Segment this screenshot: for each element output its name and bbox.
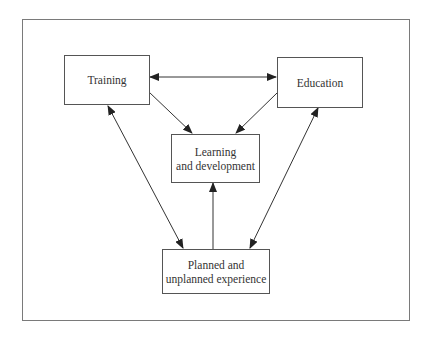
arrow-education-learning [236, 93, 277, 133]
node-experience-label: Planned and unplanned experience [166, 258, 267, 286]
arrow-education-experience [250, 108, 318, 248]
arrow-training-learning [149, 92, 192, 133]
node-planned-experience: Planned and unplanned experience [162, 249, 270, 294]
node-training-label: Training [87, 73, 126, 87]
node-education-label: Education [297, 76, 344, 90]
node-training: Training [64, 55, 150, 105]
node-learning-label: Learning and development [176, 145, 255, 173]
node-learning-development: Learning and development [171, 134, 260, 183]
node-education: Education [277, 57, 363, 108]
